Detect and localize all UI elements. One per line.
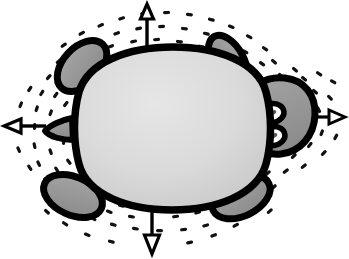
turtle-illustration: Cartoon turtle viewed from above with fo… — [0, 0, 349, 259]
shell — [75, 47, 271, 210]
illustration-canvas — [0, 0, 349, 259]
